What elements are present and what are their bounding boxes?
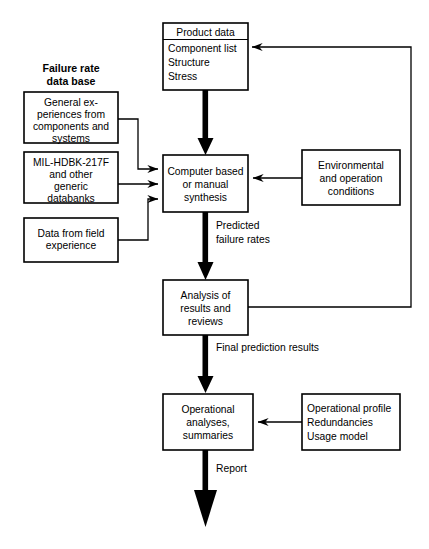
mil-hdbk-line-3: generic (54, 181, 88, 192)
edge-analysis-to-operational: Final prediction results (198, 335, 320, 393)
operational-profile-line-1: Operational profile (307, 403, 391, 414)
edge-label-predicted-line-1: Predicted (216, 220, 260, 231)
analysis-line-1: Analysis of (181, 290, 231, 301)
edge-product-data-to-synthesis (198, 90, 214, 155)
operational-line-1: Operational (181, 404, 234, 415)
section-header-line-2: data base (47, 75, 96, 87)
product-data-line-2: Structure (168, 57, 210, 68)
synthesis-line-1: Computer based (167, 166, 243, 177)
field-experience-line-1: Data from field (38, 228, 105, 239)
general-experiences-line-4: systems (52, 133, 90, 144)
edge-field-experience-to-synthesis (118, 199, 158, 240)
operational-line-3: summaries (183, 430, 233, 441)
node-analysis[interactable]: Analysis of results and reviews (163, 280, 248, 335)
environmental-line-2: and operation (320, 173, 383, 184)
node-field-experience[interactable]: Data from field experience (24, 218, 118, 262)
mil-hdbk-line-4: databanks (47, 193, 95, 204)
section-header-failure-rate-db: Failure rate data base (42, 62, 99, 87)
edge-general-experiences-to-synthesis (118, 119, 158, 169)
general-experiences-line-2: periences from (37, 109, 105, 120)
operational-line-2: analyses, (186, 417, 230, 428)
field-experience-line-2: experience (46, 240, 97, 251)
edge-operational-to-report: Report (194, 450, 247, 527)
product-data-header: Product data (176, 27, 235, 38)
edge-synthesis-to-analysis: Predicted failure rates (198, 212, 270, 280)
general-experiences-line-3: components and (33, 121, 109, 132)
environmental-line-3: conditions (328, 186, 374, 197)
diagram-canvas: Failure rate data base Product data Comp… (0, 0, 429, 549)
mil-hdbk-line-2: and other (49, 169, 93, 180)
analysis-line-2: results and (180, 303, 231, 314)
product-data-line-3: Stress (168, 71, 197, 82)
node-mil-hdbk-217f[interactable]: MIL-HDBK-217F and other generic databank… (24, 152, 118, 204)
flowchart-svg: Failure rate data base Product data Comp… (0, 0, 429, 549)
node-product-data[interactable]: Product data Component list Structure St… (163, 23, 248, 90)
synthesis-line-3: synthesis (184, 192, 227, 203)
node-operational-analyses[interactable]: Operational analyses, summaries (163, 394, 253, 450)
operational-profile-line-2: Redundancies (307, 417, 373, 428)
node-synthesis[interactable]: Computer based or manual synthesis (163, 155, 248, 212)
synthesis-line-2: or manual (183, 179, 229, 190)
general-experiences-line-1: General ex- (44, 97, 98, 108)
mil-hdbk-line-1: MIL-HDBK-217F (33, 157, 109, 168)
product-data-line-1: Component list (168, 43, 237, 54)
analysis-line-3: reviews (188, 316, 223, 327)
edge-label-final-prediction-results: Final prediction results (216, 342, 319, 353)
node-general-experiences[interactable]: General ex- periences from components an… (24, 92, 118, 144)
edge-label-report: Report (216, 463, 247, 474)
section-header-line-1: Failure rate (42, 62, 99, 74)
node-operational-profile[interactable]: Operational profile Redundancies Usage m… (302, 394, 400, 450)
edge-label-predicted-line-2: failure rates (216, 234, 270, 245)
environmental-line-1: Environmental (318, 160, 384, 171)
operational-profile-line-3: Usage model (307, 431, 368, 442)
node-environmental-conditions[interactable]: Environmental and operation conditions (302, 150, 400, 205)
